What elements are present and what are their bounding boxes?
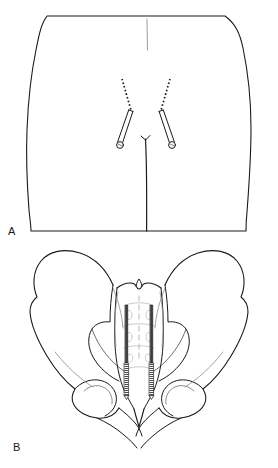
gluteal-cleft — [146, 139, 147, 231]
illustration-svg — [0, 0, 278, 468]
sacral-foramen-r3 — [145, 354, 150, 362]
sacral-segment-line-4 — [127, 367, 151, 369]
coccyx — [134, 409, 144, 427]
left-ala-detail-2 — [55, 352, 93, 387]
panel-a-group — [27, 16, 251, 231]
panel-label-b: B — [13, 441, 21, 453]
figure-container: A B — [0, 0, 278, 468]
right-iliac-wing — [159, 251, 248, 419]
panel-label-a: A — [8, 225, 16, 237]
left-trajectory-dotted — [122, 79, 131, 110]
cleft-notch — [141, 136, 150, 141]
upper-midline-crease — [147, 19, 148, 50]
left-obturator-outline — [92, 329, 129, 374]
left-pubic-ramus — [119, 408, 142, 436]
sacral-promontory — [117, 283, 161, 289]
right-ala-detail-2 — [185, 352, 223, 387]
torso-outline — [27, 16, 251, 231]
left-iliac-wing — [30, 251, 119, 419]
right-trajectory-dotted — [161, 79, 170, 110]
right-screw — [159, 110, 175, 148]
sacral-spinous-process — [136, 279, 142, 286]
right-inferior-ramus — [141, 418, 181, 448]
left-screw — [117, 110, 133, 148]
left-inferior-ramus — [97, 418, 137, 448]
right-sacral-screw — [149, 305, 153, 400]
panel-b-group — [30, 251, 248, 448]
right-acetabulum-inner — [166, 386, 194, 404]
right-pubic-ramus — [136, 408, 159, 436]
right-obturator-outline — [149, 329, 186, 374]
left-acetabulum-inner — [84, 386, 112, 404]
sacral-foramen-l3 — [127, 354, 132, 362]
left-sacral-screw — [124, 305, 128, 400]
